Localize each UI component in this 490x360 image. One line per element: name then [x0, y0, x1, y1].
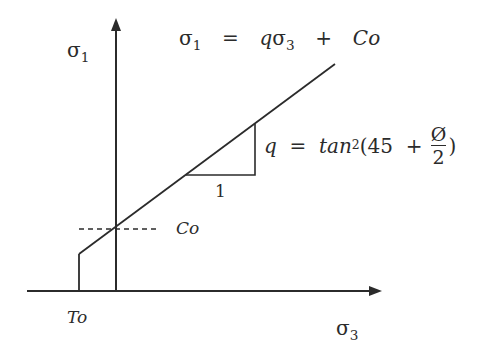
qeq-close: ) [448, 136, 456, 156]
sigma3-axis-arrow-icon [369, 286, 382, 296]
eq-q: q [260, 26, 273, 50]
qeq-power: 2 [352, 139, 360, 151]
to-label: To [67, 309, 87, 326]
qeq-tan: tan [319, 136, 352, 156]
sigma1-axis-label: σ1 [67, 40, 89, 64]
sigma1-axis-arrow-icon [111, 18, 121, 31]
eq-sigma3: σ [272, 26, 286, 50]
co-label: Co [176, 220, 199, 237]
qeq-phi: Ø [431, 124, 447, 144]
qeq-q: q [264, 136, 277, 156]
eq-co: Co [353, 26, 380, 50]
eq-sigma3-sub: 3 [286, 37, 295, 53]
eq-lhs-sub: 1 [193, 37, 202, 53]
qeq-open: (45 [360, 136, 393, 156]
qeq-equals: = [290, 136, 307, 156]
sigma3-symbol: σ [336, 316, 350, 340]
sigma1-subscript: 1 [81, 49, 90, 65]
qeq-plus: + [406, 136, 423, 156]
eq-lhs: σ [179, 26, 193, 50]
q-equation: q = tan2(45 + Ø 2 ) [264, 124, 456, 167]
eq-plus: + [315, 26, 332, 50]
sigma1-symbol: σ [67, 38, 81, 62]
slope-run-label: 1 [215, 183, 226, 200]
qeq-fraction: Ø 2 [431, 124, 447, 167]
qeq-two: 2 [431, 147, 447, 167]
main-equation: σ1 = qσ3 + Co [179, 28, 380, 52]
sigma3-axis-label: σ3 [336, 318, 358, 342]
eq-equals: = [222, 26, 239, 50]
sigma3-subscript: 3 [350, 327, 359, 343]
